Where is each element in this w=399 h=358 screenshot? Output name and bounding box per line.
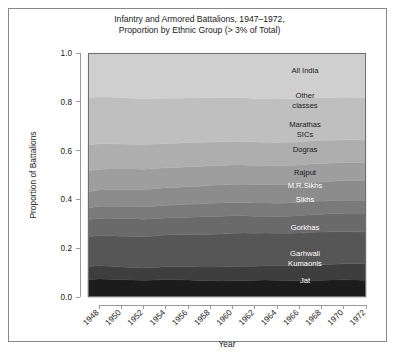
x-axis-tick-label: 1948 xyxy=(81,308,101,328)
y-axis-tick-label: 1.0 xyxy=(61,49,73,58)
band-label: M.R.Sikhs xyxy=(288,181,323,190)
area-band xyxy=(88,53,366,99)
y-axis-tick-label: 0.6 xyxy=(61,147,73,156)
area-band xyxy=(88,97,366,146)
x-axis-tick-label: 1964 xyxy=(259,308,279,328)
x-axis-tick-label: 1970 xyxy=(326,308,346,328)
x-axis-tick-label: 1972 xyxy=(348,308,368,328)
x-axis-tick-label: 1960 xyxy=(215,308,235,328)
x-axis-tick-label: 1968 xyxy=(304,308,324,328)
band-label: All India xyxy=(291,66,319,75)
x-axis-title: Year xyxy=(219,339,236,349)
y-axis-title: Proportion of Battalions xyxy=(28,131,38,218)
x-axis-tick-label: 1954 xyxy=(148,308,168,328)
stacked-area-plot: 0.00.20.40.60.81.0Proportion of Battalio… xyxy=(0,0,399,358)
x-axis-tick-label: 1958 xyxy=(192,308,212,328)
area-bands xyxy=(88,53,366,297)
y-axis-tick-label: 0.0 xyxy=(61,293,73,302)
x-axis-tick-label: 1962 xyxy=(237,308,257,328)
band-label: Sikhs xyxy=(296,195,315,204)
band-label: Jat xyxy=(300,276,311,285)
x-axis-tick-label: 1956 xyxy=(170,308,190,328)
chart-figure: Infantry and Armored Battalions, 1947–19… xyxy=(0,0,399,358)
band-label: Otherclasses xyxy=(292,91,318,110)
area-band xyxy=(88,232,366,268)
x-axis-tick-label: 1950 xyxy=(104,308,124,328)
y-axis: 0.00.20.40.60.81.0 xyxy=(61,49,80,302)
band-label: GarhwaliKumaonis xyxy=(288,249,322,268)
area-band xyxy=(88,279,366,297)
x-axis-tick-label: 1966 xyxy=(281,308,301,328)
band-label: Rajput xyxy=(294,168,317,177)
y-axis-tick-label: 0.2 xyxy=(61,244,73,253)
x-axis-tick-label: 1952 xyxy=(126,308,146,328)
y-axis-tick-label: 0.8 xyxy=(61,98,73,107)
band-label: Dogras xyxy=(293,145,318,154)
band-label: Gorkhas xyxy=(291,223,320,232)
x-axis: 1948195019521954195619581960196219641966… xyxy=(81,305,367,327)
y-axis-tick-label: 0.4 xyxy=(61,195,73,204)
